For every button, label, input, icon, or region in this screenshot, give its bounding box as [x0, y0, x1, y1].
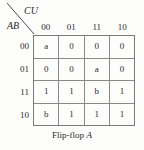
kmap-cell: 1 [110, 81, 134, 103]
kmap-cell: b [85, 81, 110, 103]
row-header-2: 11 [5, 81, 32, 104]
kmap-cell: 0 [85, 36, 110, 58]
kmap-cell: a [85, 59, 110, 81]
kmap-cell: 0 [59, 36, 84, 58]
kmap-cell: a [34, 36, 59, 58]
table-row: b 1 1 1 [34, 104, 134, 126]
column-header-1: 01 [59, 21, 85, 34]
kmap-cell: b [34, 104, 59, 126]
table-row: a 0 0 0 [34, 36, 134, 59]
kmap-cell: 0 [110, 36, 134, 58]
column-header-0: 00 [33, 21, 59, 34]
row-header-column: 00 01 11 10 [5, 35, 32, 126]
table-row: 1 1 b 1 [34, 81, 134, 104]
column-variable-label: CU [24, 5, 38, 16]
column-header-row: 00 01 11 10 [33, 21, 135, 34]
table-row: 0 0 a 0 [34, 59, 134, 82]
row-variable-label: AB [7, 20, 19, 31]
kmap-cell: 1 [59, 104, 84, 126]
kmap-cell: 1 [110, 104, 134, 126]
row-header-0: 00 [5, 35, 32, 58]
kmap-grid: a 0 0 0 0 0 a 0 1 1 b 1 b 1 1 1 [33, 35, 135, 126]
row-header-3: 10 [5, 103, 32, 126]
kmap-cell: 0 [34, 59, 59, 81]
kmap-cell: 0 [110, 59, 134, 81]
row-header-1: 01 [5, 58, 32, 81]
caption-text: Flip-flop [52, 130, 84, 140]
kmap-cell: 0 [59, 59, 84, 81]
kmap-cell: 1 [34, 81, 59, 103]
kmap-cell: 1 [85, 104, 110, 126]
figure-caption: Flip-flop A [0, 130, 144, 140]
caption-variable: A [86, 130, 92, 140]
kmap-cell: 1 [59, 81, 84, 103]
karnaugh-map-figure: CU AB 00 01 11 10 00 01 11 10 a 0 0 0 0 … [0, 0, 144, 150]
column-header-2: 11 [84, 21, 110, 34]
column-header-3: 10 [110, 21, 136, 34]
